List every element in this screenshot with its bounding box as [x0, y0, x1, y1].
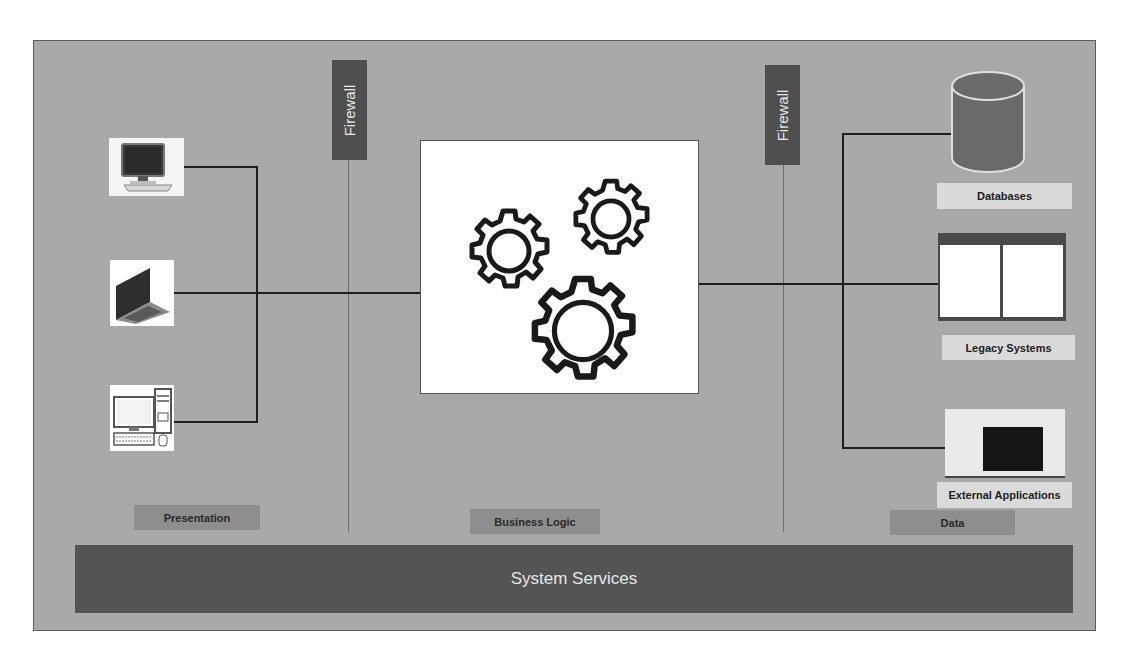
legacy-window-icon — [938, 233, 1066, 321]
system-services-bar: System Services — [75, 545, 1073, 613]
system-services-label: System Services — [511, 569, 638, 589]
firewall-right: Firewall — [765, 65, 800, 165]
connector-presentation-trunk — [256, 166, 258, 423]
connector-data-trunk — [842, 133, 844, 449]
legacy-pane-right — [1003, 245, 1063, 317]
connector-monitor — [184, 166, 258, 168]
desktop-computer-icon — [111, 387, 173, 449]
database-cylinder-icon — [950, 70, 1026, 174]
connector-desktop — [174, 421, 258, 423]
databases-label: Databases — [937, 183, 1072, 209]
connector-database — [842, 133, 953, 135]
firewall-left-divider — [348, 160, 349, 532]
monitor-icon — [114, 141, 180, 193]
legacy-systems-label: Legacy Systems — [942, 335, 1075, 360]
monitor-device — [109, 138, 184, 196]
tier-label-business-logic: Business Logic — [470, 509, 600, 534]
desktop-device — [110, 385, 174, 451]
external-app-screen — [945, 409, 1065, 478]
laptop-device — [110, 260, 174, 326]
firewall-right-divider — [783, 165, 784, 532]
connector-external-apps — [842, 447, 945, 449]
tier-label-presentation: Presentation — [134, 505, 260, 530]
gears-icon — [421, 141, 698, 393]
firewall-left: Firewall — [332, 60, 367, 160]
tier-label-data: Data — [890, 510, 1015, 535]
firewall-left-label: Firewall — [341, 84, 358, 136]
laptop-icon — [112, 262, 172, 324]
business-logic-box — [420, 140, 699, 394]
connector-laptop-to-logic — [174, 292, 420, 294]
firewall-right-label: Firewall — [774, 89, 791, 141]
terminal-window-icon — [983, 427, 1043, 471]
connector-logic-to-legacy — [699, 283, 944, 285]
external-applications-label: External Applications — [937, 482, 1072, 508]
legacy-pane-left — [940, 245, 1000, 317]
